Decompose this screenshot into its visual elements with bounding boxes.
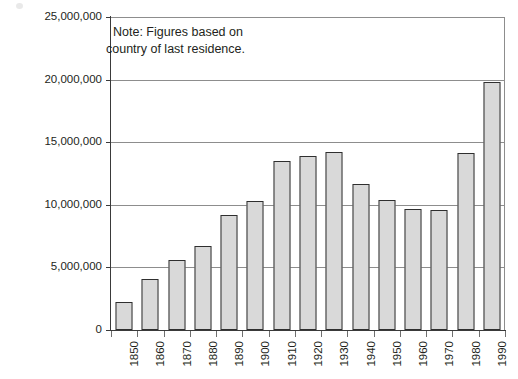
bar-1990	[483, 82, 500, 330]
x-tick-label-1930: 1930	[339, 341, 351, 367]
bar-1890	[221, 215, 238, 330]
bar-slot-1850	[111, 17, 137, 330]
bar-slot-1910	[269, 17, 295, 330]
chart-note-line-1: Note: Figures based on	[106, 24, 306, 41]
bar-1880	[194, 246, 211, 330]
bar-slot-1980	[452, 17, 478, 330]
x-tick-label-1980: 1980	[471, 341, 483, 367]
bar-1940	[352, 184, 369, 330]
x-tick-label-1960: 1960	[418, 341, 430, 367]
x-tick-label-1950: 1950	[392, 341, 404, 367]
immigration-bar-chart: 05,000,00010,000,00015,000,00020,000,000…	[0, 0, 518, 379]
bar-slot-1930	[321, 17, 347, 330]
x-tick-mark-6	[269, 331, 270, 337]
bar-slot-1880	[190, 17, 216, 330]
x-tick-mark-11	[400, 331, 401, 337]
x-tick-mark-3	[190, 331, 191, 337]
chart-note: Note: Figures based on country of last r…	[106, 24, 306, 58]
x-tick-mark-2	[164, 331, 165, 337]
x-tick-label-1850: 1850	[129, 341, 141, 367]
x-tick-mark-0	[111, 331, 112, 337]
bar-1970	[431, 210, 448, 330]
bar-slot-1940	[347, 17, 373, 330]
x-tick-label-1990: 1990	[497, 341, 509, 367]
x-tick-label-1940: 1940	[366, 341, 378, 367]
x-tick-label-1880: 1880	[208, 341, 220, 367]
x-tick-mark-14	[479, 331, 480, 337]
x-tick-label-1920: 1920	[313, 341, 325, 367]
y-tick-label-10000000: 10,000,000	[6, 199, 102, 211]
bar-1870	[168, 260, 185, 330]
bar-1920	[299, 156, 316, 330]
y-tick-label-25000000: 25,000,000	[6, 11, 102, 23]
bar-slot-1860	[137, 17, 163, 330]
y-tick-label-0: 0	[6, 324, 102, 336]
x-tick-mark-9	[347, 331, 348, 337]
x-tick-label-1890: 1890	[234, 341, 246, 367]
x-tick-label-1860: 1860	[155, 341, 167, 367]
scan-artifact-speck	[16, 3, 23, 9]
x-tick-label-1910: 1910	[287, 341, 299, 367]
x-tick-mark-15	[505, 331, 506, 337]
x-tick-mark-12	[426, 331, 427, 337]
x-tick-mark-1	[137, 331, 138, 337]
bar-1850	[116, 302, 133, 330]
chart-note-line-2: country of last residence.	[106, 41, 306, 58]
x-tick-mark-8	[321, 331, 322, 337]
bar-1900	[247, 201, 264, 330]
bar-1960	[405, 209, 422, 330]
x-tick-mark-13	[452, 331, 453, 337]
bar-1930	[326, 152, 343, 330]
bar-slot-1950	[374, 17, 400, 330]
y-tick-label-15000000: 15,000,000	[6, 136, 102, 148]
x-tick-mark-5	[242, 331, 243, 337]
y-tick-label-5000000: 5,000,000	[6, 261, 102, 273]
bar-slot-1960	[400, 17, 426, 330]
bar-1950	[378, 200, 395, 330]
x-tick-mark-4	[216, 331, 217, 337]
x-axis-line	[110, 330, 506, 331]
bars	[111, 17, 505, 330]
bar-1910	[273, 161, 290, 330]
bar-slot-1990	[479, 17, 505, 330]
x-tick-label-1970: 1970	[444, 341, 456, 367]
x-tick-mark-10	[374, 331, 375, 337]
x-tick-label-1870: 1870	[182, 341, 194, 367]
bar-slot-1920	[295, 17, 321, 330]
bar-slot-1970	[426, 17, 452, 330]
bar-slot-1870	[164, 17, 190, 330]
bar-1980	[457, 153, 474, 330]
bar-1860	[142, 279, 159, 330]
bar-slot-1900	[242, 17, 268, 330]
x-tick-mark-7	[295, 331, 296, 337]
bar-slot-1890	[216, 17, 242, 330]
y-tick-label-20000000: 20,000,000	[6, 74, 102, 86]
x-tick-label-1900: 1900	[260, 341, 272, 367]
